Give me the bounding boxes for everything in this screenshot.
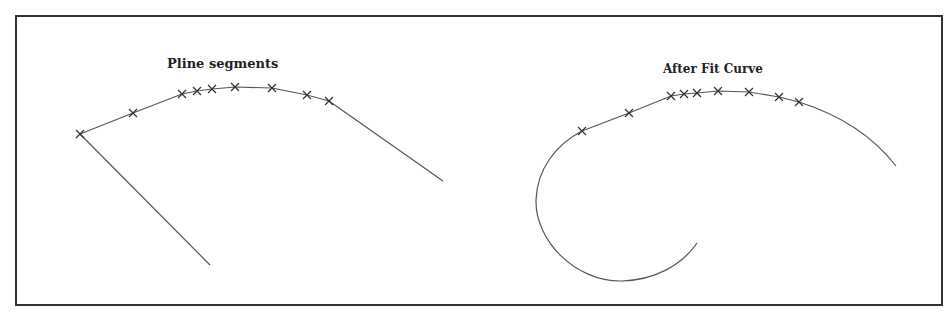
vertex-x-marker-icon [325, 97, 333, 105]
pline-start-segment [80, 134, 210, 265]
pline-segments-drawing [76, 83, 443, 265]
vertex-x-marker-icon [578, 127, 586, 135]
fit-curve-vertex-path [582, 91, 799, 131]
fit-curve-start-arc [536, 131, 697, 281]
fit-curve-drawing [536, 87, 896, 281]
vertex-x-marker-icon [129, 109, 137, 117]
pline-vertex-path [80, 87, 329, 134]
vertex-x-marker-icon [795, 98, 803, 106]
vertex-x-marker-icon [625, 109, 633, 117]
diagram-canvas [0, 0, 952, 317]
fit-curve-end-arc [799, 102, 896, 166]
pline-end-segment [329, 101, 443, 181]
vertex-x-marker-icon [76, 130, 84, 138]
